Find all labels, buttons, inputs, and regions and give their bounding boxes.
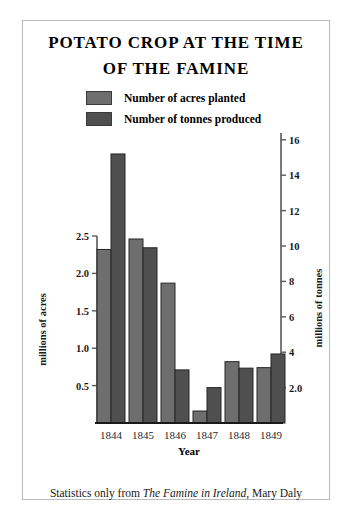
caption-prefix: Statistics only from <box>50 487 143 499</box>
legend-swatch-tonnes <box>86 112 112 126</box>
chart-caption: Statistics only from The Famine in Irela… <box>22 487 330 499</box>
chart-title-line-2: OF THE FAMINE <box>22 56 330 82</box>
chart-page: POTATO CROP AT THE TIME OF THE FAMINE Nu… <box>0 0 354 524</box>
chart-title: POTATO CROP AT THE TIME OF THE FAMINE <box>22 30 330 82</box>
legend-label-acres: Number of acres planted <box>124 92 245 104</box>
chart-legend: Number of acres planted Number of tonnes… <box>86 88 316 130</box>
legend-label-tonnes: Number of tonnes produced <box>124 113 261 125</box>
legend-swatch-acres <box>86 91 112 105</box>
caption-suffix: , Mary Daly <box>246 487 302 499</box>
caption-source-title: The Famine in Ireland <box>143 487 246 499</box>
legend-item-tonnes: Number of tonnes produced <box>86 109 316 128</box>
legend-item-acres: Number of acres planted <box>86 88 316 107</box>
chart-title-line-1: POTATO CROP AT THE TIME <box>22 30 330 56</box>
